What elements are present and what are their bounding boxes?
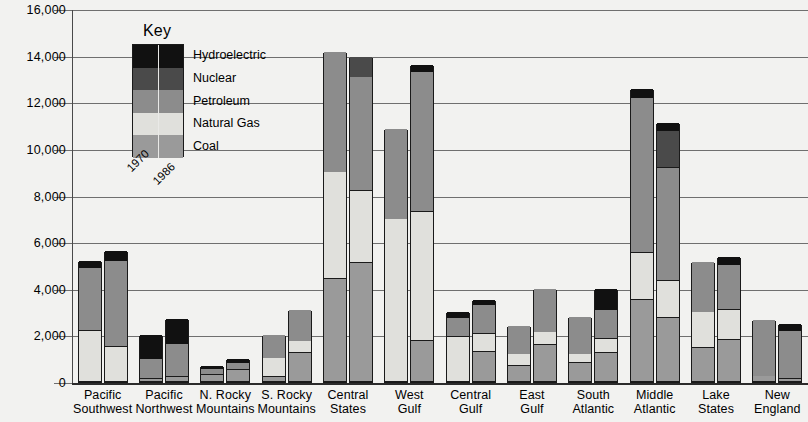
legend-swatch-row — [133, 113, 183, 137]
legend-swatch-1986 — [158, 135, 184, 158]
bar-group — [446, 10, 496, 383]
legend-swatch-1970 — [133, 113, 158, 136]
stacked-bar-chart: 16,00014,00012,00010,0008,0006,0004,0002… — [0, 0, 808, 422]
stacked-bar[interactable] — [594, 290, 618, 383]
bar-segment — [534, 289, 556, 332]
stacked-bar[interactable] — [752, 321, 776, 383]
stacked-bar[interactable] — [323, 53, 347, 383]
legend-title: Key — [125, 22, 189, 40]
bar-segment — [201, 366, 223, 369]
legend-label: Natural Gas — [193, 117, 260, 130]
bar-segment — [692, 262, 714, 312]
legend-swatch-row — [133, 68, 183, 92]
legend-swatches — [132, 44, 184, 157]
bar-segment — [473, 305, 495, 334]
bar-segment — [508, 326, 530, 354]
stacked-bar[interactable] — [533, 290, 557, 383]
bar-segment — [753, 320, 775, 376]
bar-segment — [79, 261, 101, 268]
bar-group — [568, 10, 618, 383]
bar-segment — [779, 331, 801, 379]
bar-segment — [595, 289, 617, 310]
legend-swatch-1986 — [158, 68, 184, 91]
legend-label: Nuclear — [193, 72, 236, 85]
stacked-bar[interactable] — [717, 258, 741, 383]
stacked-bar[interactable] — [288, 311, 312, 383]
stacked-bar[interactable] — [691, 263, 715, 383]
bar-segment — [447, 337, 469, 382]
stacked-bar[interactable] — [568, 318, 592, 383]
bar-segment — [385, 219, 407, 382]
bar-segment — [105, 347, 127, 382]
stacked-bar[interactable] — [630, 90, 654, 383]
bar-group — [323, 10, 373, 383]
bar-segment — [657, 123, 679, 131]
stacked-bar[interactable] — [139, 336, 163, 383]
bar-segment — [779, 324, 801, 331]
bar-segment — [166, 319, 188, 343]
legend-swatch-1986 — [158, 45, 184, 68]
bar-segment — [411, 341, 433, 382]
bar-segment — [289, 310, 311, 341]
stacked-bar[interactable] — [472, 301, 496, 383]
bar-segment — [324, 52, 346, 172]
bar-segment — [227, 359, 249, 364]
x-axis-label: NewEngland — [741, 389, 808, 416]
legend-label: Coal — [193, 139, 219, 152]
legend-swatch-1970 — [133, 68, 158, 91]
bar-group — [200, 10, 250, 383]
stacked-bar[interactable] — [778, 325, 802, 383]
x-axis-baseline — [72, 383, 808, 385]
bar-segment — [631, 89, 653, 97]
bar-segment — [657, 318, 679, 382]
y-axis-tick-label: 0 — [0, 377, 66, 390]
y-axis-tick-label: 14,000 — [0, 50, 66, 63]
bar-segment — [105, 251, 127, 260]
y-axis-tick-label: 4,000 — [0, 284, 66, 297]
bar-segment — [166, 344, 188, 378]
bar-segment — [411, 212, 433, 341]
bar-segment — [350, 191, 372, 263]
bar-segment — [263, 358, 285, 378]
bar-segment — [350, 57, 372, 77]
bar-group — [691, 10, 741, 383]
bar-group — [507, 10, 557, 383]
bar-segment — [201, 375, 223, 382]
stacked-bar[interactable] — [200, 367, 224, 383]
stacked-bar[interactable] — [262, 336, 286, 383]
stacked-bar[interactable] — [104, 252, 128, 383]
bar-group — [78, 10, 128, 383]
y-axis-tick-label: 12,000 — [0, 97, 66, 110]
bar-segment — [350, 77, 372, 191]
bar-segment — [473, 334, 495, 351]
bar-segment — [718, 310, 740, 340]
y-axis-tick-label: 16,000 — [0, 4, 66, 17]
bar-segment — [140, 335, 162, 358]
bar-segment — [718, 257, 740, 265]
stacked-bar[interactable] — [226, 360, 250, 383]
bar-segment — [385, 129, 407, 219]
bar-segment — [79, 268, 101, 331]
bar-segment — [595, 310, 617, 339]
legend-swatch-1970 — [133, 90, 158, 113]
bar-segment — [201, 369, 223, 375]
bar-segment — [411, 72, 433, 212]
bar-segment — [324, 172, 346, 279]
stacked-bar[interactable] — [165, 320, 189, 383]
legend-swatch-row — [133, 90, 183, 114]
x-axis-label-line: New — [741, 389, 808, 403]
stacked-bar[interactable] — [78, 262, 102, 383]
stacked-bar[interactable] — [384, 130, 408, 383]
bar-group — [262, 10, 312, 383]
bar-segment — [289, 341, 311, 353]
bar-segment — [569, 363, 591, 382]
legend-label: Hydroelectric — [193, 49, 266, 62]
stacked-bar[interactable] — [446, 313, 470, 383]
stacked-bar[interactable] — [410, 66, 434, 383]
y-axis-tick-label: 10,000 — [0, 144, 66, 157]
stacked-bar[interactable] — [656, 124, 680, 383]
bar-segment — [289, 353, 311, 382]
stacked-bar[interactable] — [507, 327, 531, 383]
stacked-bar[interactable] — [349, 58, 373, 383]
bar-segment — [657, 281, 679, 318]
